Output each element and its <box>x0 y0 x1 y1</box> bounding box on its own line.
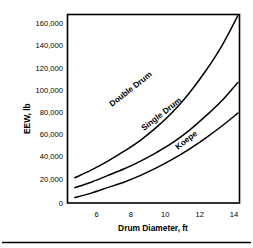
y-tick-label-80000: 80,000 <box>40 108 63 117</box>
chart-background <box>0 0 253 248</box>
eew-vs-drum-diameter-chart: 160,000 140,000 120,000 100,000 80,000 6… <box>0 0 253 248</box>
x-tick-label-10: 10 <box>161 210 169 219</box>
y-tick-label-0: 0 <box>59 199 63 208</box>
x-tick-label-12: 12 <box>195 210 203 219</box>
y-tick-label-120000: 120,000 <box>36 64 63 73</box>
x-axis-title: Drum Diameter, ft <box>118 223 188 233</box>
y-tick-label-40000: 40,000 <box>40 152 63 161</box>
x-tick-label-6: 6 <box>94 210 98 219</box>
y-tick-label-160000: 160,000 <box>36 19 63 28</box>
x-tick-label-14: 14 <box>230 210 238 219</box>
x-tick-label-8: 8 <box>129 210 133 219</box>
y-axis-title: EEW, lb <box>22 103 32 134</box>
y-tick-label-100000: 100,000 <box>36 86 63 95</box>
y-tick-label-20000: 20,000 <box>40 175 63 184</box>
chart-figure: 160,000 140,000 120,000 100,000 80,000 6… <box>0 0 253 248</box>
y-tick-label-140000: 140,000 <box>36 41 63 50</box>
y-tick-label-60000: 60,000 <box>40 130 63 139</box>
